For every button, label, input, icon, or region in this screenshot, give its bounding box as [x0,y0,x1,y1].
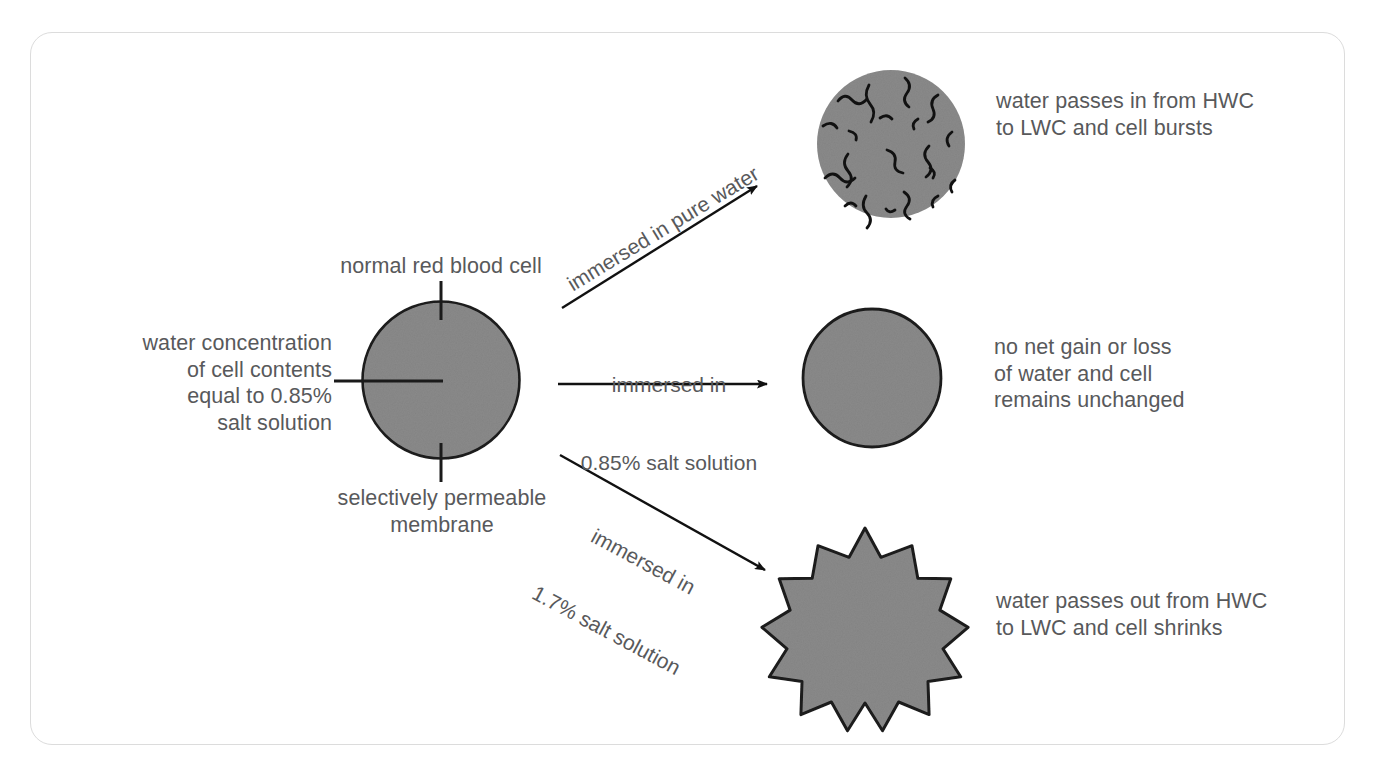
arrow-label-isotonic-line1: immersed in [556,372,782,398]
label-water-concentration: water concentration of cell contents equ… [110,330,332,436]
crenated-cell [762,528,968,731]
outcome-text-shrunk: water passes out from HWC to LWC and cel… [996,588,1336,641]
outcome-text-unchanged: no net gain or loss of water and cell re… [994,334,1324,414]
outcome-text-burst: water passes in from HWC to LWC and cell… [996,88,1326,141]
burst-cell [817,70,965,228]
unchanged-cell [803,309,941,447]
label-normal-red-blood-cell: normal red blood cell [306,253,576,280]
figure-page: normal red blood cell water concentratio… [0,0,1377,774]
